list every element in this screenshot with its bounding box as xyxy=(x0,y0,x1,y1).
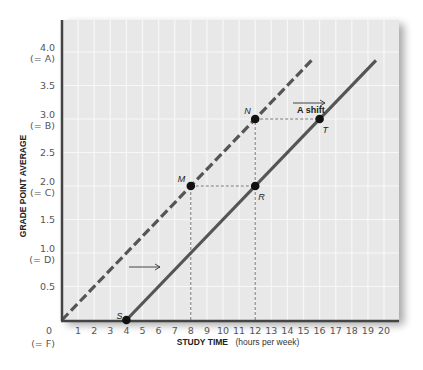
chart: 1234567891011121314151617181920 0(= F)0.… xyxy=(0,0,423,370)
x-tick-label: 13 xyxy=(265,325,277,336)
x-tick-label: 2 xyxy=(91,325,97,336)
x-tick-label: 1 xyxy=(75,325,81,336)
point-label: R xyxy=(258,192,265,202)
y-tick-label: 1.5 xyxy=(40,214,55,225)
x-tick-label: 19 xyxy=(362,325,374,336)
y-tick-sub: (= B) xyxy=(30,120,55,131)
y-tick-label: 2.0 xyxy=(40,176,55,187)
shift-label: A shift xyxy=(297,105,325,115)
x-tick-label: 4 xyxy=(123,325,129,336)
point-t xyxy=(315,115,324,124)
y-tick-label: 4.0 xyxy=(40,42,55,53)
x-tick-label: 17 xyxy=(330,325,342,336)
y-tick-label: 2.5 xyxy=(40,147,55,158)
y-tick-label: 3.5 xyxy=(40,80,55,91)
point-r xyxy=(251,182,260,191)
y-tick-label: 3.0 xyxy=(40,109,55,120)
y-axis-ticks: 0(= F)0.51.0(= D)1.52.0(= C)2.53.0(= B)3… xyxy=(29,42,55,349)
point-n xyxy=(251,115,260,124)
y-tick-label: 0 xyxy=(46,325,52,336)
x-tick-label: 11 xyxy=(233,325,245,336)
x-tick-label: 3 xyxy=(107,325,113,336)
x-tick-label: 20 xyxy=(378,325,390,336)
point-label: M xyxy=(178,174,186,184)
x-tick-label: 7 xyxy=(172,325,178,336)
y-tick-sub: (= D) xyxy=(29,254,55,265)
y-tick-sub: (= F) xyxy=(31,338,55,349)
y-axis-title: GRADE POINT AVERAGE xyxy=(18,134,28,237)
y-tick-label: 0.5 xyxy=(40,281,55,292)
x-axis-ticks: 1234567891011121314151617181920 xyxy=(75,325,390,336)
x-tick-label: 12 xyxy=(249,325,261,336)
y-tick-sub: (= A) xyxy=(30,53,55,64)
x-tick-label: 6 xyxy=(156,325,162,336)
point-s xyxy=(122,316,131,325)
plot-area xyxy=(62,20,399,321)
point-label: S xyxy=(116,311,122,321)
x-tick-label: 15 xyxy=(297,325,309,336)
x-tick-label: 18 xyxy=(346,325,358,336)
x-tick-label: 14 xyxy=(281,325,293,336)
x-tick-label: 16 xyxy=(314,325,326,336)
point-label: N xyxy=(244,106,251,116)
point-m xyxy=(187,182,196,191)
x-tick-label: 5 xyxy=(139,325,145,336)
y-tick-label: 1.0 xyxy=(40,243,55,254)
y-tick-sub: (= C) xyxy=(30,187,55,198)
x-tick-label: 9 xyxy=(204,325,210,336)
x-tick-label: 8 xyxy=(188,325,194,336)
